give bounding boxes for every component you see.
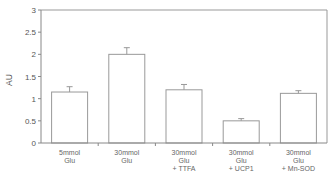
label-line: Glu bbox=[179, 157, 190, 164]
y-tick-label: 0 bbox=[32, 139, 37, 148]
label-line: 30mmol bbox=[229, 149, 254, 156]
label-line: Glu bbox=[121, 157, 132, 164]
y-tick-label: 2.5 bbox=[25, 28, 37, 37]
y-tick-label: 1.5 bbox=[25, 73, 37, 82]
bar bbox=[52, 92, 88, 143]
bar bbox=[166, 90, 202, 143]
bar bbox=[109, 54, 145, 143]
x-category-label: 30mmolGlu bbox=[114, 149, 139, 164]
label-line: 30mmol bbox=[286, 149, 311, 156]
x-axis: 5mmolGlu30mmolGlu30mmolGlu+ TTFA30mmolGl… bbox=[41, 143, 327, 172]
label-line: + Mn-SOD bbox=[282, 165, 315, 172]
y-tick-label: 0.5 bbox=[25, 117, 37, 126]
label-line: 5mmol bbox=[59, 149, 80, 156]
label-line: + TTFA bbox=[172, 165, 195, 172]
bar bbox=[223, 121, 259, 143]
y-tick-label: 3 bbox=[32, 6, 37, 15]
label-line: 30mmol bbox=[172, 149, 197, 156]
x-category-label: 30mmolGlu+ Mn-SOD bbox=[282, 149, 315, 172]
label-line: Glu bbox=[293, 157, 304, 164]
bar bbox=[280, 93, 316, 143]
y-tick-label: 1 bbox=[32, 95, 37, 104]
x-category-label: 30mmolGlu+ UCP1 bbox=[229, 149, 254, 172]
y-axis-title: AU bbox=[4, 74, 14, 86]
y-tick-label: 2 bbox=[32, 50, 37, 59]
label-line: Glu bbox=[236, 157, 247, 164]
bars bbox=[52, 48, 317, 143]
x-category-label: 5mmolGlu bbox=[59, 149, 80, 164]
label-line: 30mmol bbox=[114, 149, 139, 156]
x-category-label: 30mmolGlu+ TTFA bbox=[172, 149, 197, 172]
bar-chart: 00.511.522.53 AU 5mmolGlu30mmolGlu30mmol… bbox=[0, 0, 335, 173]
label-line: + UCP1 bbox=[229, 165, 254, 172]
y-axis: 00.511.522.53 bbox=[25, 6, 41, 148]
label-line: Glu bbox=[64, 157, 75, 164]
